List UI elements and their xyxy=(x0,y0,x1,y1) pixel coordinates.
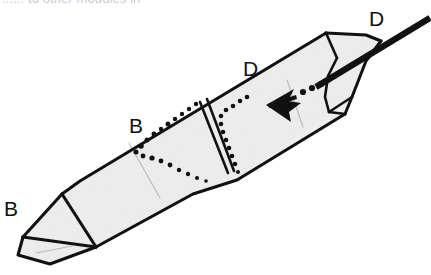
arrow-tail-dot-1 xyxy=(300,89,306,95)
figure-root: ...... to other modules in xyxy=(0,0,431,275)
label-d-middle: D xyxy=(243,57,258,80)
arrow-tail-dot-3 xyxy=(318,81,324,87)
paper-body xyxy=(0,0,431,275)
paper-texture xyxy=(0,0,431,275)
label-d-top-right: D xyxy=(369,7,384,30)
label-b-middle: B xyxy=(129,114,143,137)
arrow-tail-dot-2 xyxy=(309,85,315,91)
label-b-left: B xyxy=(4,197,18,220)
folded-module-illustration: D D B B xyxy=(0,0,431,275)
